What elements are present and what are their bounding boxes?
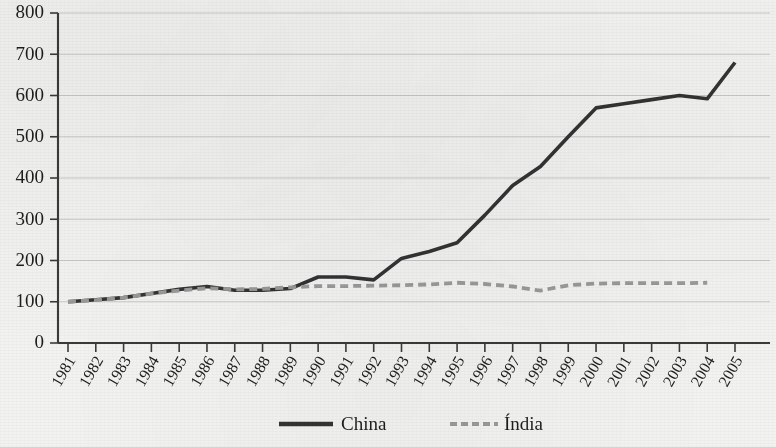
x-axis-tick-label: 1984	[131, 353, 162, 389]
y-axis-tick-label: 300	[16, 208, 45, 229]
y-axis-tick-label: 600	[16, 84, 45, 105]
x-axis-tick-label: 1993	[381, 353, 412, 389]
y-axis-tick-label: 200	[16, 249, 45, 270]
x-axis-tick-label: 2002	[632, 353, 663, 389]
series-line-india	[68, 283, 707, 302]
x-tick-marks-group	[68, 343, 735, 352]
x-axis-tick-label: 1992	[354, 353, 385, 389]
x-axis-tick-label: 1986	[187, 353, 218, 389]
x-axis-tick-label: 1981	[48, 353, 79, 389]
y-axis-labels-group: 0100200300400500600700800	[16, 1, 45, 352]
y-axis-tick-label: 500	[16, 125, 45, 146]
x-axis-tick-label: 1998	[520, 353, 551, 389]
line-chart: 0100200300400500600700800 19811982198319…	[0, 0, 776, 447]
x-axis-tick-label: 1983	[103, 353, 134, 389]
legend-label-india: Índia	[504, 413, 544, 434]
legend-label-china: China	[341, 413, 387, 434]
y-axis-tick-label: 800	[16, 1, 45, 22]
x-axis-tick-label: 1989	[270, 353, 301, 389]
x-axis-tick-label: 2000	[576, 353, 607, 389]
x-axis-labels-group: 1981198219831984198519861987198819891990…	[48, 353, 746, 389]
y-axis-tick-label: 0	[35, 331, 45, 352]
chart-legend: ChinaÍndia	[279, 413, 544, 434]
x-axis-tick-label: 1997	[493, 353, 524, 389]
x-axis-tick-label: 1995	[437, 353, 468, 389]
x-axis-tick-label: 2004	[687, 353, 718, 389]
y-axis-tick-label: 400	[16, 166, 45, 187]
x-axis-tick-label: 1985	[159, 353, 190, 389]
x-axis-tick-label: 2005	[715, 353, 746, 389]
data-series-group	[68, 63, 735, 302]
x-axis-tick-label: 1988	[242, 353, 273, 389]
x-axis-tick-label: 1994	[409, 353, 440, 389]
x-axis-tick-label: 1982	[76, 353, 107, 389]
chart-canvas: 0100200300400500600700800 19811982198319…	[0, 0, 776, 447]
x-axis-tick-label: 1999	[548, 353, 579, 389]
x-axis-tick-label: 1991	[326, 353, 357, 389]
x-axis-tick-label: 2001	[604, 353, 635, 389]
y-axis-tick-label: 100	[16, 290, 45, 311]
x-axis-tick-label: 2003	[659, 353, 690, 389]
y-axis-tick-label: 700	[16, 43, 45, 64]
x-axis-tick-label: 1987	[215, 353, 246, 389]
gridlines-group	[58, 13, 770, 302]
series-line-china	[68, 63, 735, 302]
x-axis-tick-label: 1996	[465, 353, 496, 389]
x-axis-tick-label: 1990	[298, 353, 329, 389]
